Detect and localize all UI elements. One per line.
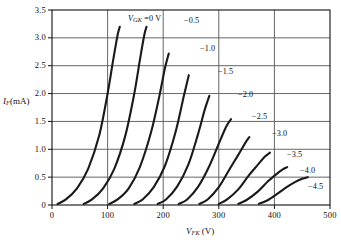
curve-label--3.0: −3.0 [272,129,287,138]
y-tick-label: 2.5 [20,61,46,70]
curve-label--1.0: −1.0 [200,44,215,53]
curve--1.5 [134,75,188,204]
plot-frame [52,10,330,205]
curve-label--2.5: −2.5 [252,112,267,121]
x-tick-label: 300 [205,211,233,220]
curve-label-value: =0 V [142,14,161,23]
y-tick-label: 3.5 [20,6,46,15]
curve--3.5 [219,153,270,204]
y-axis-title: IF(mA) [3,96,29,106]
curve-label--2.0: −2.0 [238,90,253,99]
x-axis-title-unit: (V) [200,226,215,236]
curve--4.5 [259,177,308,204]
y-axis-title-unit: (mA) [10,96,30,106]
y-tick-label: 0.5 [20,173,46,182]
curve--2.5 [179,119,231,204]
plot-canvas [0,0,341,242]
curve-label--4.5: −4.5 [308,182,323,191]
y-tick-label: 1.5 [20,117,46,126]
x-tick-label: 0 [38,211,66,220]
x-tick-label: 400 [260,211,288,220]
x-tick-label: 200 [149,211,177,220]
curve-label-subscript: GK [133,16,142,23]
y-tick-label: 0 [20,201,46,210]
curve-label--3.5: −3.5 [287,150,302,159]
x-axis-title-subscript: FK [192,229,200,236]
curve--2.0 [158,96,210,204]
curve--1.0 [109,53,168,203]
grid-lines [52,10,330,205]
curve--4.0 [238,167,287,204]
y-tick-label: 3.0 [20,33,46,42]
curve-label--0.5: −0.5 [184,16,199,25]
curve-label-0: VGK =0 V [128,14,161,23]
curve-label--1.5: −1.5 [218,67,233,76]
y-tick-label: 1.0 [20,145,46,154]
x-axis-title: VFK(V) [186,226,214,236]
curve-label--4.0: −4.0 [300,166,315,175]
x-axis-ticks [52,205,330,209]
y-axis-ticks [48,10,52,205]
chart-figure: 00.51.01.52.02.53.03.5 0100200300400500 … [0,0,341,242]
x-tick-label: 100 [94,211,122,220]
x-tick-label: 500 [316,211,341,220]
